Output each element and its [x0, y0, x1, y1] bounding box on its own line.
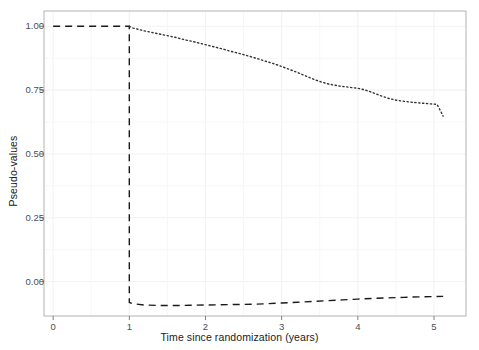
pseudo-values-chart: 0.000.250.500.751.00 012345 Time since r… — [0, 0, 479, 350]
x-axis-tick-labels: 012345 — [0, 0, 479, 350]
x-axis-title: Time since randomization (years) — [0, 331, 479, 343]
y-axis-title: Pseudo-values — [7, 136, 19, 207]
y-axis-title-wrapper: Pseudo-values — [3, 96, 21, 246]
